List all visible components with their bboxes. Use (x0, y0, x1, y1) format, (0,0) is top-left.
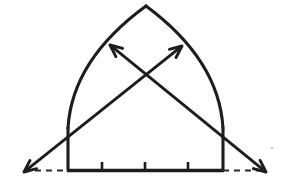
diagonal-line-left-to-upper-right (25, 47, 181, 172)
arrowhead-group (24, 45, 266, 172)
diagram-canvas (0, 0, 287, 190)
arch-diagram-svg (0, 0, 287, 190)
arch-outline-group (68, 6, 223, 170)
diagonal-line-right-to-upper-left (111, 46, 265, 172)
paper-speck (271, 147, 273, 149)
diagonal-arrow-group (25, 46, 265, 172)
arch-left-arc (68, 6, 146, 128)
